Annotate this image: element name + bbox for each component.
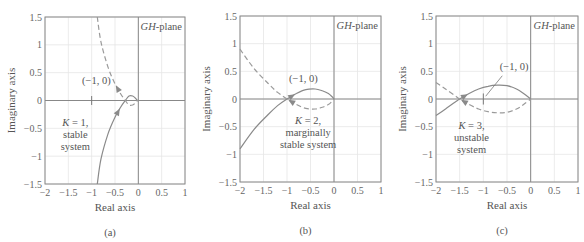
y-tick-label: 0.5 [421, 66, 434, 77]
gain-annotation: K = 2,marginallystable system [280, 115, 336, 150]
nyquist-figure: −2−1.5−1−0.500.511.510.50−0.5−1−1.5Real … [0, 0, 584, 242]
y-tick-label: −0.5 [24, 123, 42, 134]
critical-point-label: (−1, 0) [82, 75, 111, 87]
x-tick-label: 1 [183, 187, 188, 198]
x-tick-label: 0.5 [351, 185, 364, 196]
y-tick-label: −1.5 [24, 179, 42, 190]
x-tick-label: −1 [86, 187, 97, 198]
x-axis-label: Real axis [95, 201, 136, 213]
panel-caption: (c) [496, 225, 508, 237]
y-axis-label: Imaginary axis [396, 66, 408, 132]
x-tick-label: −0.5 [301, 185, 319, 196]
y-tick-label: −1 [226, 149, 237, 160]
y-tick-label: 0 [232, 94, 237, 105]
x-tick-label: −0.5 [106, 187, 124, 198]
x-tick-label: 1 [379, 185, 384, 196]
y-tick-label: 1 [37, 39, 42, 50]
x-tick-label: −1.5 [59, 187, 77, 198]
x-tick-label: −0.5 [498, 185, 516, 196]
x-tick-label: −1 [478, 185, 489, 196]
y-tick-label: −1 [422, 149, 433, 160]
y-tick-label: 0.5 [30, 67, 43, 78]
panel-c: −2−1.5−1−0.500.511.510.50−0.5−1−1.5Real … [396, 11, 581, 238]
panel-b: −2−1.5−1−0.500.511.510.50−0.5−1−1.5Real … [200, 11, 384, 238]
y-tick-label: 1.5 [30, 12, 43, 23]
panel-caption: (a) [104, 227, 116, 239]
plane-label: GH-plane [534, 20, 576, 31]
x-tick-label: 0 [528, 185, 533, 196]
x-axis-label: Real axis [487, 199, 528, 211]
x-tick-label: 1 [576, 185, 581, 196]
y-tick-label: 0.5 [225, 66, 238, 77]
x-tick-label: 0.5 [548, 185, 561, 196]
y-tick-label: −1.5 [219, 177, 237, 188]
x-tick-label: 0 [332, 185, 337, 196]
x-tick-label: −1 [282, 185, 293, 196]
x-tick-label: −1.5 [451, 185, 469, 196]
y-tick-label: 0 [37, 95, 42, 106]
y-tick-label: 1.5 [421, 11, 434, 22]
plane-label: GH-plane [337, 20, 379, 31]
y-axis-label: Imaginary axis [200, 66, 212, 132]
y-tick-label: −0.5 [219, 121, 237, 132]
x-tick-label: −1.5 [254, 185, 272, 196]
critical-point-label: (−1, 0) [289, 73, 318, 85]
y-tick-label: 1 [232, 38, 237, 49]
y-tick-label: 1 [428, 38, 433, 49]
y-tick-label: −1 [31, 151, 42, 162]
y-tick-label: 0 [428, 94, 433, 105]
gain-annotation: K = 1,stablesystem [61, 117, 90, 152]
gain-annotation: K = 3,unstablesystem [454, 120, 489, 155]
critical-point-label: (−1, 0) [500, 61, 529, 73]
y-tick-label: 1.5 [225, 11, 238, 22]
x-tick-label: 0.5 [155, 187, 168, 198]
nyquist-curve [97, 96, 138, 184]
y-tick-label: −0.5 [415, 121, 433, 132]
panel-caption: (b) [299, 225, 312, 237]
panel-a: −2−1.5−1−0.500.511.510.50−0.5−1−1.5Real … [5, 12, 188, 240]
y-tick-label: −1.5 [415, 177, 433, 188]
plane-label: GH-plane [141, 21, 183, 32]
y-axis-label: Imaginary axis [5, 68, 17, 134]
x-tick-label: 0 [136, 187, 141, 198]
direction-arrow-icon [113, 84, 122, 93]
x-axis-label: Real axis [290, 199, 331, 211]
